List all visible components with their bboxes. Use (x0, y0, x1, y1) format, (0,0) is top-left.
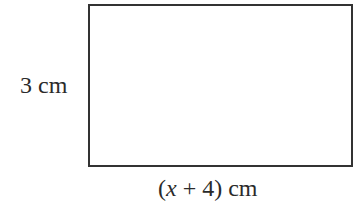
width-label-open: ( (158, 175, 166, 201)
height-label: 3 cm (20, 73, 67, 97)
width-label-variable: x (166, 175, 177, 201)
width-label-rest: + 4) (177, 175, 223, 201)
rectangle-shape (88, 4, 353, 167)
width-label-unit: cm (222, 175, 257, 201)
width-label: (x + 4) cm (158, 176, 258, 200)
